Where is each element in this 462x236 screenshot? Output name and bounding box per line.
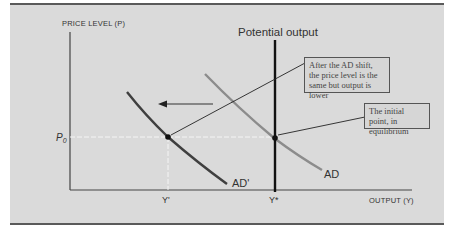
y-star-label: Y* <box>269 195 279 205</box>
arrowhead-icon <box>158 101 167 108</box>
annotation-shift: After the AD shift, the price level is t… <box>304 57 390 93</box>
leader-line-shift <box>171 63 305 135</box>
initial-equilibrium-point <box>272 135 278 141</box>
ad-prime-curve-label: AD' <box>232 177 249 189</box>
y-axis-label: PRICE LEVEL (P) <box>62 19 125 28</box>
y-prime-label: Y' <box>162 195 170 205</box>
leader-line-initial <box>278 117 365 135</box>
x-axis-label: OUTPUT (Y) <box>369 196 414 205</box>
potential-output-title: Potential output <box>238 26 319 38</box>
p0-label: P0 <box>56 132 67 144</box>
new-equilibrium-point <box>165 134 171 140</box>
annotation-initial: The initial point, in equilibrium <box>364 103 430 129</box>
ad-prime-curve <box>127 92 227 184</box>
ad-curve-label: AD <box>324 168 339 180</box>
